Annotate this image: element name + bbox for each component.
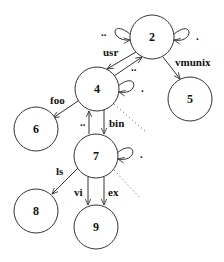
svg-text:4: 4 (94, 82, 100, 96)
edge-4-self-dot (118, 81, 134, 93)
node-9: 9 (74, 205, 118, 249)
label-vi: vi (74, 186, 83, 198)
node-5: 5 (168, 77, 212, 121)
svg-text:2: 2 (149, 30, 155, 44)
label-4-self-dot: . (141, 82, 144, 94)
edge-2-self-dotdot (115, 28, 130, 40)
edge-2-self-dot (174, 29, 189, 41)
svg-text:8: 8 (33, 204, 39, 218)
node-7: 7 (74, 134, 118, 178)
svg-text:5: 5 (187, 92, 193, 106)
label-ex: ex (108, 186, 119, 198)
label-foo: foo (50, 94, 65, 106)
label-2-self-dot: . (196, 30, 199, 42)
label-vmunix: vmunix (175, 56, 211, 68)
svg-text:6: 6 (33, 122, 39, 136)
node-6: 6 (14, 107, 58, 151)
label-2-self-dotdot: .. (101, 26, 107, 38)
svg-text:7: 7 (93, 149, 99, 163)
edge-7-self-dot (117, 148, 133, 160)
label-7-self-dot: . (140, 148, 143, 160)
node-4: 4 (75, 67, 119, 111)
label-usr: usr (103, 46, 118, 58)
label-7-to-4-dotdot: .. (80, 116, 86, 128)
label-ls: ls (56, 165, 64, 177)
node-8: 8 (14, 189, 58, 233)
label-bin: bin (109, 117, 124, 129)
svg-text:9: 9 (93, 220, 99, 234)
label-4-to-2-dotdot: .. (131, 61, 137, 73)
node-2: 2 (130, 15, 174, 59)
directory-graph-diagram: 2 4 5 6 7 8 9 .. . usr .. vmunix . foo .… (0, 0, 224, 262)
edge-4-to-2-dotdot (114, 57, 142, 76)
